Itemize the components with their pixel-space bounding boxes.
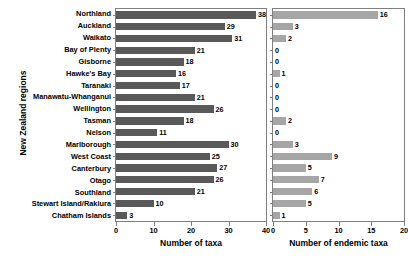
bar-row: 18 [116, 115, 266, 127]
category-tick [113, 86, 116, 87]
category-label: Taranaki [12, 79, 113, 91]
category-tick [270, 86, 273, 87]
bar-row: 26 [116, 174, 266, 186]
category-label: Gisborne [12, 56, 113, 68]
category-label: Manawatu-Whanganui [12, 91, 113, 103]
bar-value-label: 0 [275, 82, 279, 89]
category-tick [270, 203, 273, 204]
bar-value-label: 31 [234, 35, 242, 42]
x-axis-tick-label: 0 [271, 227, 275, 234]
category-tick [270, 109, 273, 110]
x-axis-tick-label: 0 [114, 227, 118, 234]
category-label: Southland [12, 186, 113, 198]
category-label: Marlborough [12, 139, 113, 151]
bar-row: 21 [116, 44, 266, 56]
bar-value-label: 38 [258, 11, 266, 18]
bar [273, 11, 378, 18]
bar [116, 94, 195, 101]
bar [273, 188, 312, 195]
bar-row: 10 [116, 198, 266, 210]
bar-row: 3 [116, 209, 266, 221]
category-tick [113, 50, 116, 51]
bar-row: 0 [273, 127, 404, 139]
bar-row: 3 [273, 139, 404, 151]
bar-row: 30 [116, 139, 266, 151]
bar [273, 212, 280, 219]
bar-value-label: 0 [275, 47, 279, 54]
category-label: Waikato [12, 32, 113, 44]
category-tick [270, 121, 273, 122]
category-tick [113, 168, 116, 169]
bar [273, 117, 286, 124]
bar-row: 6 [273, 186, 404, 198]
category-label: Otago [12, 174, 113, 186]
category-tick [270, 215, 273, 216]
bar-value-label: 3 [295, 23, 299, 30]
bar [116, 82, 180, 89]
x-axis-tick-label: 20 [400, 227, 408, 234]
bar-row: 2 [273, 115, 404, 127]
bar-row: 21 [116, 186, 266, 198]
bars-total-taxa: 38293121181617212618113025272621103 [116, 9, 266, 221]
bar-value-label: 18 [186, 117, 194, 124]
bar-value-label: 30 [231, 141, 239, 148]
bar-value-label: 1 [282, 70, 286, 77]
x-axis-tick-label: 10 [334, 227, 342, 234]
bar-value-label: 3 [129, 212, 133, 219]
bar-value-label: 3 [295, 141, 299, 148]
bar-value-label: 16 [380, 11, 388, 18]
x-axis-tick-label: 20 [187, 227, 195, 234]
category-tick [113, 97, 116, 98]
panel-total-taxa: 38293121181617212618113025272621103 [115, 8, 267, 222]
bar-value-label: 11 [159, 129, 167, 136]
bar [116, 141, 229, 148]
x-axis-title-total-taxa: Number of taxa [115, 238, 267, 248]
category-label-column: NorthlandAucklandWaikatoBay of PlentyGis… [12, 8, 113, 222]
bar [116, 105, 214, 112]
category-tick [270, 192, 273, 193]
category-tick [270, 180, 273, 181]
bar [116, 176, 214, 183]
bar-value-label: 0 [275, 94, 279, 101]
category-label: Bay of Plenty [12, 44, 113, 56]
category-label: Hawke's Bay [12, 67, 113, 79]
bar [116, 70, 176, 77]
category-label: Tasman [12, 115, 113, 127]
x-axis-total-taxa: Number of taxa 010203040 [115, 222, 267, 256]
bar-value-label: 17 [182, 82, 190, 89]
category-tick [113, 38, 116, 39]
bar-value-label: 21 [197, 47, 205, 54]
category-tick [113, 156, 116, 157]
bar-value-label: 10 [156, 200, 164, 207]
bar-row: 27 [116, 162, 266, 174]
category-tick [113, 133, 116, 134]
bar-row: 0 [273, 56, 404, 68]
bar-value-label: 7 [321, 176, 325, 183]
category-tick [113, 192, 116, 193]
category-tick [270, 50, 273, 51]
category-tick [270, 62, 273, 63]
bar-row: 5 [273, 198, 404, 210]
category-tick [113, 121, 116, 122]
bar [116, 200, 154, 207]
category-label: Chatham Islands [12, 210, 113, 222]
bar-row: 38 [116, 9, 266, 21]
category-label: Wellington [12, 103, 113, 115]
category-tick [113, 15, 116, 16]
bar-row: 29 [116, 21, 266, 33]
bar-row: 25 [116, 150, 266, 162]
bars-endemic-taxa: 1632001000203957651 [273, 9, 404, 221]
bar-value-label: 5 [308, 164, 312, 171]
bar-row: 2 [273, 33, 404, 45]
category-tick [113, 215, 116, 216]
bar-row: 26 [116, 103, 266, 115]
bar-value-label: 0 [275, 129, 279, 136]
bar-value-label: 0 [275, 58, 279, 65]
bar-value-label: 21 [197, 188, 205, 195]
bar-row: 11 [116, 127, 266, 139]
bar-value-label: 26 [216, 106, 224, 113]
category-tick [270, 38, 273, 39]
bar-value-label: 6 [314, 188, 318, 195]
bar-value-label: 21 [197, 94, 205, 101]
category-tick [270, 144, 273, 145]
